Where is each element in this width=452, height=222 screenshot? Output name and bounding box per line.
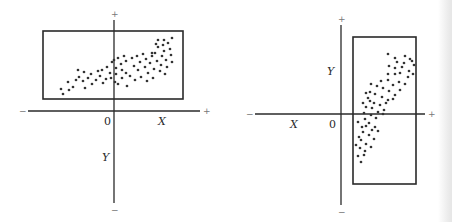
data-point: [126, 85, 129, 88]
y-axis-label-left: Y: [102, 151, 111, 164]
y-positive-sign-left: +: [111, 9, 119, 19]
data-point: [145, 58, 148, 61]
figure-canvas: − + + − 0 X Y − + + − 0 X Y: [0, 0, 452, 222]
data-point: [360, 161, 363, 164]
data-point: [359, 147, 362, 150]
data-point: [369, 100, 372, 103]
data-point: [115, 67, 118, 70]
data-point: [157, 39, 160, 42]
data-point: [136, 55, 139, 58]
data-point: [361, 126, 364, 129]
data-point: [106, 66, 109, 69]
data-point: [67, 81, 70, 84]
data-point: [134, 79, 137, 82]
data-point: [370, 146, 373, 149]
data-point: [380, 80, 383, 83]
data-point: [370, 83, 373, 86]
data-point: [152, 77, 155, 80]
data-point: [154, 52, 157, 55]
data-point: [364, 150, 367, 153]
data-point: [78, 76, 81, 79]
data-point: [129, 75, 132, 78]
data-point: [123, 55, 126, 58]
data-point: [382, 87, 385, 90]
data-point: [367, 97, 370, 100]
y-negative-sign-left: −: [111, 205, 119, 215]
data-point: [394, 57, 397, 60]
data-point: [413, 64, 416, 67]
data-point: [358, 136, 361, 139]
origin-label-right: 0: [329, 118, 336, 131]
data-point: [117, 83, 120, 86]
data-point: [90, 73, 93, 76]
data-point: [110, 77, 113, 80]
data-point: [151, 55, 154, 58]
data-point: [163, 50, 166, 53]
data-point: [388, 65, 391, 68]
data-point: [157, 46, 160, 49]
data-point: [164, 73, 167, 76]
data-point: [381, 96, 384, 99]
data-point: [368, 134, 371, 137]
data-point: [156, 60, 159, 63]
scatter-panel-left: − + + − 0 X Y: [19, 9, 211, 215]
data-point: [165, 59, 168, 62]
data-point: [144, 66, 147, 69]
data-point: [137, 69, 140, 72]
data-point: [83, 71, 86, 74]
data-point: [163, 39, 166, 42]
data-point: [377, 111, 380, 114]
data-point: [169, 48, 172, 51]
data-point: [87, 77, 90, 80]
data-point: [399, 72, 402, 75]
data-point: [407, 76, 410, 79]
data-point: [355, 144, 358, 147]
data-point: [387, 99, 390, 102]
data-point: [383, 109, 386, 112]
data-point: [84, 87, 87, 90]
data-point: [68, 89, 71, 92]
data-point: [167, 42, 170, 45]
data-point: [121, 77, 124, 80]
data-point: [387, 53, 390, 56]
data-point: [60, 88, 63, 91]
data-point: [394, 73, 397, 76]
data-point: [151, 52, 154, 55]
data-point: [153, 68, 156, 71]
data-point: [117, 57, 120, 60]
data-point: [374, 126, 377, 129]
data-point: [105, 78, 108, 81]
data-point: [382, 113, 385, 116]
data-point: [91, 83, 94, 86]
data-point: [385, 102, 388, 105]
data-point: [394, 67, 397, 70]
data-point: [101, 69, 104, 72]
y-negative-sign-right: −: [338, 207, 346, 217]
x-axis-label-right: X: [289, 118, 299, 131]
data-point: [368, 122, 371, 125]
data-point: [360, 139, 363, 142]
data-point: [171, 37, 174, 40]
data-point: [371, 129, 374, 132]
data-point: [121, 69, 124, 72]
x-positive-sign-right: +: [428, 109, 436, 119]
data-point: [82, 80, 85, 83]
data-point: [373, 138, 376, 141]
data-point: [162, 44, 165, 47]
data-point: [363, 154, 366, 157]
data-point: [408, 70, 411, 73]
data-point: [409, 58, 412, 61]
data-point: [388, 90, 391, 93]
data-point: [412, 73, 415, 76]
data-point: [357, 155, 360, 158]
data-point: [166, 66, 169, 69]
data-point: [404, 83, 407, 86]
data-point: [62, 93, 65, 96]
data-point: [401, 66, 404, 69]
data-point: [392, 84, 395, 87]
data-point: [147, 72, 150, 75]
data-point: [374, 93, 377, 96]
origin-label-left: 0: [104, 115, 111, 128]
data-point: [404, 55, 407, 58]
data-point: [387, 73, 390, 76]
